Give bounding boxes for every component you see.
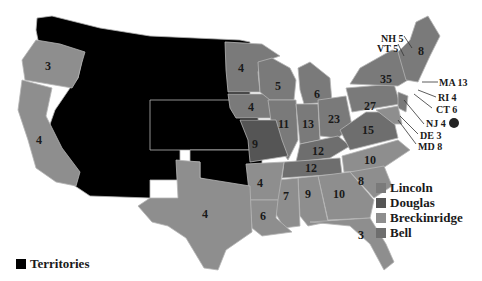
bell-swatch-icon [376, 228, 386, 238]
label-louisiana: 6 [260, 210, 266, 222]
label-tennessee: 12 [305, 162, 317, 174]
label-wisconsin: 5 [275, 80, 281, 92]
label-florida: 3 [358, 229, 364, 241]
legend-label: Lincoln [390, 180, 433, 196]
label-indiana: 13 [302, 118, 314, 130]
legend-item-douglas: Douglas [376, 195, 463, 210]
legend-item-territories: Territories [16, 256, 89, 272]
label-south-carolina: 8 [358, 175, 364, 187]
label-minnesota: 4 [238, 62, 244, 74]
state-arkansas [246, 162, 284, 200]
callout-ri: RI 4 [438, 93, 457, 103]
label-california: 4 [36, 134, 42, 146]
label-illinois: 11 [278, 118, 289, 130]
label-alabama: 9 [305, 188, 311, 200]
label-ohio: 23 [328, 113, 340, 125]
legend-item-bell: Bell [376, 225, 463, 240]
nj-split-marker-icon [449, 118, 459, 128]
label-new-york: 35 [380, 73, 392, 85]
legend-item-breckinridge: Breckinridge [376, 210, 463, 225]
label-north-carolina: 10 [364, 154, 376, 166]
callout-nj: NJ 4 [426, 119, 446, 129]
label-georgia: 10 [333, 188, 345, 200]
callout-de: DE 3 [420, 131, 441, 141]
label-maine: 8 [418, 45, 424, 57]
label-mississippi: 7 [283, 190, 289, 202]
label-michigan: 6 [314, 88, 320, 100]
territories-swatch-icon [16, 259, 26, 269]
lincoln-swatch-icon [376, 183, 386, 193]
label-missouri: 9 [252, 138, 258, 150]
douglas-swatch-icon [376, 198, 386, 208]
legend-item-lincoln: Lincoln [376, 180, 463, 195]
callout-vt: VT 5 [377, 44, 398, 54]
callout-ct: CT 6 [436, 105, 457, 115]
label-kentucky: 12 [312, 145, 324, 157]
legend-label: Territories [30, 256, 89, 272]
label-pennsylvania: 27 [364, 100, 376, 112]
legend-label: Bell [390, 225, 412, 241]
breckinridge-swatch-icon [376, 213, 386, 223]
legend: Lincoln Douglas Breckinridge Bell [376, 180, 463, 240]
state-new-jersey [398, 92, 408, 112]
legend-label: Breckinridge [390, 210, 463, 226]
callout-md: MD 8 [418, 142, 442, 152]
legend-label: Douglas [390, 195, 435, 211]
label-virginia: 15 [362, 124, 374, 136]
callout-ma: MA 13 [439, 78, 468, 88]
label-arkansas: 4 [257, 177, 263, 189]
label-texas: 4 [202, 208, 208, 220]
label-iowa: 4 [248, 101, 254, 113]
label-oregon: 3 [45, 60, 51, 72]
